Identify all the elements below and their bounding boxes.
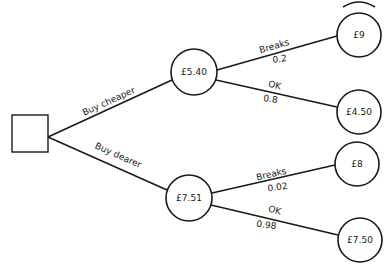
terminal-node-dearer-breaks: £8 <box>335 142 379 186</box>
label-dearer-ok: OK <box>267 204 283 217</box>
terminal-node-cheaper-breaks: £9 <box>337 13 381 57</box>
prob-cheaper-ok: 0.8 <box>263 93 279 105</box>
cropped-node-fragment <box>343 2 375 7</box>
chance-node-dearer: £7.51 <box>166 175 212 221</box>
decision-node <box>12 115 48 152</box>
chance-node-cheaper: £5.40 <box>171 49 217 95</box>
payoff-cheaper-ok: £4.50 <box>346 107 372 117</box>
terminal-node-cheaper-ok: £4.50 <box>337 90 381 134</box>
expected-value-cheaper: £5.40 <box>181 67 207 77</box>
prob-dearer-ok: 0.98 <box>256 219 278 232</box>
prob-cheaper-breaks: 0.2 <box>272 53 288 65</box>
terminal-node-dearer-ok: £7.50 <box>338 218 382 262</box>
decision-tree-diagram: £5.40 £7.51 £9 £4.50 £8 £7.50 Buy cheape… <box>0 0 389 273</box>
payoff-dearer-ok: £7.50 <box>347 235 373 245</box>
label-buy-cheaper: Buy cheaper <box>81 85 137 118</box>
label-buy-dearer: Buy dearer <box>94 141 144 170</box>
prob-dearer-breaks: 0.02 <box>267 181 288 194</box>
expected-value-dearer: £7.51 <box>176 193 202 203</box>
label-cheaper-ok: OK <box>267 79 283 92</box>
payoff-dearer-breaks: £8 <box>351 159 363 169</box>
payoff-cheaper-breaks: £9 <box>353 30 365 40</box>
edge-buy-cheaper <box>48 80 172 137</box>
